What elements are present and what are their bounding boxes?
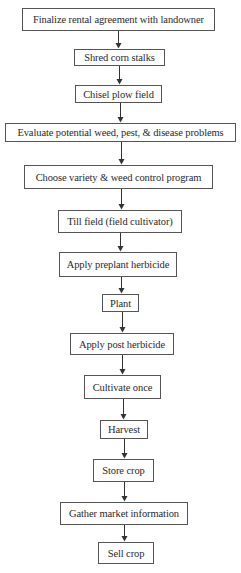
flow-step-10: Cultivate once xyxy=(84,375,161,399)
arrow-down-icon xyxy=(119,189,125,210)
flow-step-14: Sell crop xyxy=(98,542,154,564)
flow-step-3: Chisel plow field xyxy=(75,85,162,103)
flow-step-5: Choose variety & weed control program xyxy=(24,165,213,189)
flow-step-12: Store crop xyxy=(93,459,154,482)
flow-step-6: Till field (field cultivator) xyxy=(58,210,182,233)
flow-step-4: Evaluate potential weed, pest, & disease… xyxy=(5,123,236,142)
flow-step-2: Shred corn stalks xyxy=(74,49,165,66)
arrow-down-icon xyxy=(119,142,125,165)
arrow-down-icon xyxy=(122,482,128,502)
arrow-down-icon xyxy=(120,355,126,375)
flow-step-9: Apply post herbicide xyxy=(70,333,174,355)
flow-step-7: Apply preplant herbicide xyxy=(59,252,177,277)
flow-step-11: Harvest xyxy=(100,420,148,439)
flow-step-8: Plant xyxy=(102,294,139,312)
arrow-down-icon xyxy=(117,66,123,85)
arrow-down-icon xyxy=(118,233,124,252)
arrow-down-icon xyxy=(119,277,125,294)
flow-step-13: Gather market information xyxy=(60,502,188,525)
arrow-down-icon xyxy=(118,103,124,123)
flow-step-1: Finalize rental agreement with landowner xyxy=(22,8,215,31)
arrow-down-icon xyxy=(121,399,127,420)
arrow-down-icon xyxy=(120,312,126,333)
arrow-down-icon xyxy=(116,31,122,49)
arrow-down-icon xyxy=(122,525,128,542)
arrow-down-icon xyxy=(122,439,128,459)
